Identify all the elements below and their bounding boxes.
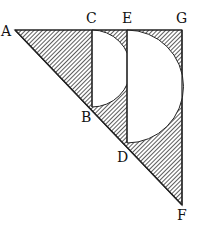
label-d: D	[117, 150, 128, 164]
label-a: A	[1, 24, 11, 38]
label-e: E	[122, 11, 132, 25]
label-f: F	[177, 208, 187, 222]
label-g: G	[176, 11, 187, 25]
label-b: B	[81, 110, 91, 124]
geometry-diagram	[0, 0, 201, 227]
label-c: C	[86, 11, 97, 25]
